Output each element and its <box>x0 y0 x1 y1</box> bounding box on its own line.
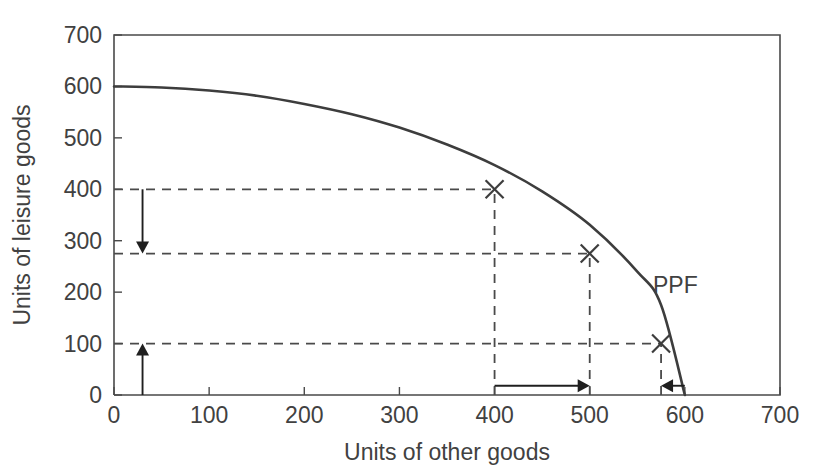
x-tick-label: 100 <box>190 402 228 428</box>
x-tick-label: 0 <box>108 402 121 428</box>
arrow-left-other-goods-head <box>661 379 673 392</box>
plot-frame <box>114 35 780 395</box>
x-tick-label: 200 <box>285 402 323 428</box>
arrow-right-other-goods-head <box>578 379 590 392</box>
arrow-right-other-goods <box>495 379 590 392</box>
arrow-down-leisure <box>136 189 149 253</box>
y-tick-label: 100 <box>64 331 102 357</box>
x-axis-ticks <box>114 387 780 395</box>
ppf-curve-group <box>114 86 685 395</box>
arrow-up-leisure-head <box>136 344 149 356</box>
guide-lines-group <box>114 189 661 395</box>
data-point-markers <box>486 180 670 352</box>
ppf-chart: 0100200300400500600700 01002003004005006… <box>0 0 834 467</box>
arrow-up-leisure <box>136 344 149 395</box>
x-axis-tick-labels: 0100200300400500600700 <box>108 402 800 428</box>
y-tick-label: 200 <box>64 279 102 305</box>
x-tick-label: 300 <box>380 402 418 428</box>
x-axis-title: Units of other goods <box>344 439 550 465</box>
x-tick-label: 600 <box>666 402 704 428</box>
x-tick-label: 400 <box>475 402 513 428</box>
y-tick-label: 700 <box>64 22 102 48</box>
ppf-series-label: PPF <box>653 272 698 298</box>
ppf-chart-canvas: 0100200300400500600700 01002003004005006… <box>0 0 834 467</box>
ppf-curve-path <box>114 86 685 395</box>
y-tick-label: 400 <box>64 176 102 202</box>
arrow-down-leisure-head <box>136 242 149 254</box>
point-c-marker <box>652 335 670 353</box>
annotation-arrows <box>136 189 685 395</box>
y-axis-ticks <box>114 35 122 395</box>
y-axis-title: Units of leisure goods <box>9 104 35 325</box>
x-tick-label: 500 <box>571 402 609 428</box>
y-tick-label: 500 <box>64 125 102 151</box>
x-tick-label: 700 <box>761 402 799 428</box>
y-tick-label: 0 <box>89 382 102 408</box>
y-tick-label: 300 <box>64 228 102 254</box>
plot-box <box>114 35 780 395</box>
y-tick-label: 600 <box>64 73 102 99</box>
y-axis-tick-labels: 0100200300400500600700 <box>64 22 102 408</box>
